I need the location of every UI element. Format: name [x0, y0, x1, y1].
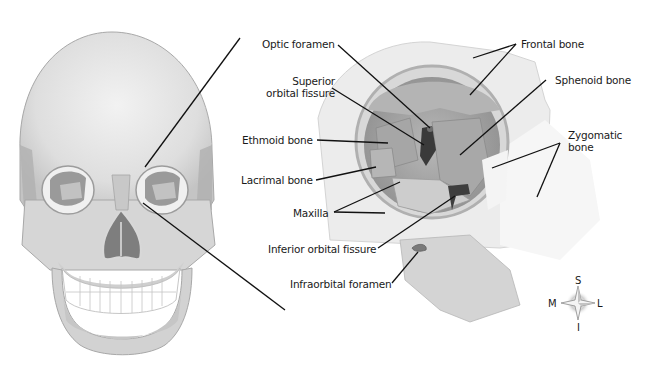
label-zygomatic-bone-line2: bone — [568, 141, 622, 153]
label-lacrimal-bone: Lacrimal bone — [241, 174, 313, 186]
compass-inferior-label: I — [577, 323, 580, 333]
label-zygomatic-bone: Zygomatic bone — [568, 129, 622, 153]
label-sphenoid-bone: Sphenoid bone — [555, 74, 631, 86]
label-infraorbital-foramen: Infraorbital foramen — [290, 278, 392, 290]
anatomy-illustration — [0, 0, 647, 369]
skull-anterior-view — [20, 32, 215, 355]
label-optic-foramen: Optic foramen — [262, 38, 335, 50]
compass-lateral-label: L — [597, 299, 603, 309]
compass-medial-label: M — [548, 299, 557, 309]
label-zygomatic-bone-line1: Zygomatic — [568, 129, 622, 141]
label-inferior-orbital-fissure: Inferior orbital fissure — [268, 243, 376, 255]
label-frontal-bone: Frontal bone — [521, 38, 584, 50]
label-ethmoid-bone: Ethmoid bone — [242, 134, 313, 146]
orbit-anatomy-figure: Optic foramen Superior orbital fissure E… — [0, 0, 647, 369]
label-superior-orbital-fissure: Superior orbital fissure — [280, 75, 335, 99]
compass-rose-icon — [561, 286, 595, 320]
compass-superior-label: S — [575, 276, 581, 286]
label-superior-orbital-fissure-line2: orbital fissure — [260, 87, 335, 99]
label-superior-orbital-fissure-line1: Superior — [280, 75, 335, 87]
label-maxilla: Maxilla — [293, 207, 329, 219]
